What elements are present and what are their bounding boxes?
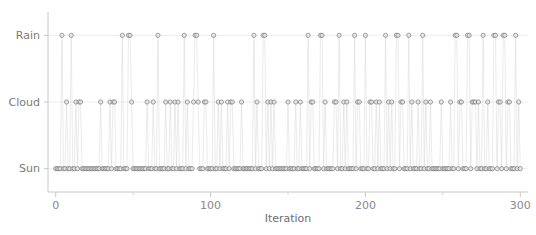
x-tick-label-300: 300 <box>510 199 531 212</box>
data-point-marker <box>311 100 315 104</box>
data-point-marker <box>272 100 276 104</box>
data-point-marker <box>190 167 194 171</box>
data-point-marker <box>476 100 480 104</box>
data-point-marker <box>439 100 443 104</box>
data-point-marker <box>421 33 425 37</box>
weather-state-chart: SunCloudRain 0100200300 Iteration <box>0 0 536 235</box>
data-point-marker <box>125 167 129 171</box>
data-point-marker <box>424 100 428 104</box>
data-point-marker <box>448 100 452 104</box>
data-point-marker <box>195 33 199 37</box>
data-point-marker <box>145 100 149 104</box>
data-point-marker <box>393 167 397 171</box>
data-point-marker <box>323 100 327 104</box>
chart-canvas: SunCloudRain 0100200300 Iteration <box>0 0 536 235</box>
data-point-marker <box>260 167 264 171</box>
data-point-marker <box>263 33 267 37</box>
data-point-marker <box>337 33 341 37</box>
data-point-marker <box>518 167 522 171</box>
data-point-marker <box>320 33 324 37</box>
data-point-marker <box>156 33 160 37</box>
data-point-marker <box>230 100 234 104</box>
data-point-marker <box>455 33 459 37</box>
data-point-marker <box>507 100 511 104</box>
data-point-marker <box>452 167 456 171</box>
data-point-marker <box>185 100 189 104</box>
data-point-marker <box>495 167 499 171</box>
data-point-marker <box>486 100 490 104</box>
data-point-marker <box>410 100 414 104</box>
data-point-marker <box>306 33 310 37</box>
data-point-marker <box>459 100 463 104</box>
data-point-marker <box>493 33 497 37</box>
data-point-marker <box>370 100 374 104</box>
data-point-marker <box>352 33 356 37</box>
data-point-marker <box>514 33 518 37</box>
data-point-marker <box>481 33 485 37</box>
data-point-marker <box>294 100 298 104</box>
data-point-marker <box>428 100 432 104</box>
data-point-marker <box>345 100 349 104</box>
data-point-marker <box>400 100 404 104</box>
data-point-marker <box>416 100 420 104</box>
data-point-marker <box>120 33 124 37</box>
data-point-marker <box>407 33 411 37</box>
data-point-marker <box>334 100 338 104</box>
data-point-marker <box>212 33 216 37</box>
x-axis-title: Iteration <box>265 212 312 225</box>
data-point-marker <box>504 167 508 171</box>
data-point-marker <box>130 100 134 104</box>
data-point-marker <box>397 167 401 171</box>
data-point-marker <box>490 167 494 171</box>
data-point-marker <box>204 100 208 104</box>
data-point-marker <box>363 33 367 37</box>
data-point-marker <box>517 100 521 104</box>
x-tick-label-100: 100 <box>200 199 221 212</box>
data-point-marker <box>498 100 502 104</box>
data-point-marker <box>503 33 507 37</box>
data-point-marker <box>78 100 82 104</box>
data-point-marker <box>467 33 471 37</box>
data-point-marker <box>286 100 290 104</box>
x-tick-label-200: 200 <box>355 199 376 212</box>
data-point-marker <box>308 167 312 171</box>
data-point-marker <box>500 167 504 171</box>
data-point-marker <box>383 33 387 37</box>
data-point-marker <box>128 33 132 37</box>
data-point-marker <box>191 100 195 104</box>
data-point-marker <box>331 167 335 171</box>
data-point-marker <box>176 100 180 104</box>
data-point-marker <box>201 167 205 171</box>
data-point-marker <box>298 100 302 104</box>
data-point-marker <box>469 167 473 171</box>
data-point-marker <box>164 100 168 104</box>
data-point-marker <box>396 33 400 37</box>
data-point-marker <box>464 167 468 171</box>
y-tick-label-sun: Sun <box>19 162 40 175</box>
data-point-marker <box>99 100 103 104</box>
data-point-marker <box>75 167 79 171</box>
data-point-marker <box>239 100 243 104</box>
data-point-marker <box>227 167 231 171</box>
y-tick-label-rain: Rain <box>16 29 40 42</box>
data-point-marker <box>60 33 64 37</box>
data-point-marker <box>109 167 113 171</box>
data-point-marker <box>377 100 381 104</box>
data-point-marker <box>151 100 155 104</box>
data-point-marker <box>354 167 358 171</box>
data-point-marker <box>64 100 68 104</box>
data-point-marker <box>112 100 116 104</box>
data-point-marker <box>390 100 394 104</box>
y-tick-label-cloud: Cloud <box>9 96 40 109</box>
data-point-marker <box>219 100 223 104</box>
data-point-marker <box>182 33 186 37</box>
x-tick-label-0: 0 <box>52 199 59 212</box>
data-point-marker <box>366 167 370 171</box>
data-point-marker <box>69 33 73 37</box>
data-point-marker <box>357 100 361 104</box>
data-point-marker <box>168 100 172 104</box>
data-point-marker <box>252 33 256 37</box>
data-point-marker <box>196 100 200 104</box>
data-point-marker <box>317 167 321 171</box>
data-point-marker <box>456 167 460 171</box>
